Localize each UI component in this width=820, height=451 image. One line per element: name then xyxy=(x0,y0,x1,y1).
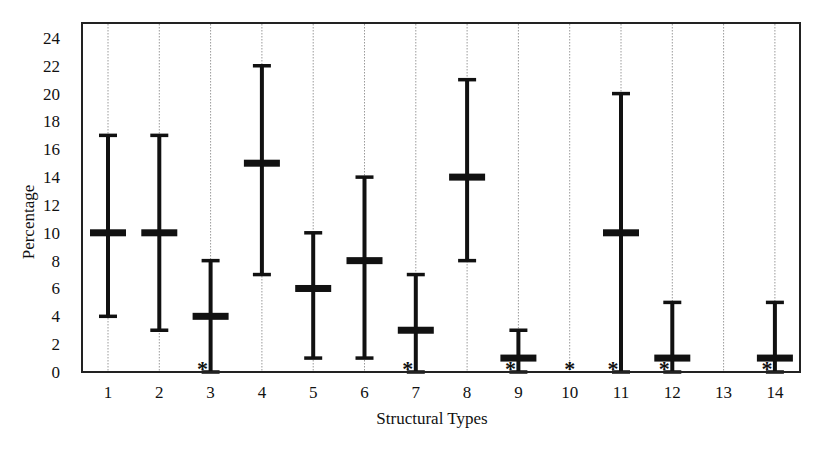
x-tick-label: 2 xyxy=(155,383,164,402)
x-tick-label: 12 xyxy=(664,383,681,402)
asterisk-marker: * xyxy=(608,356,619,381)
y-tick-label: 24 xyxy=(43,29,61,48)
y-axis-label: Percentage xyxy=(19,147,39,297)
asterisk-marker: * xyxy=(564,356,575,381)
asterisk-marker: * xyxy=(659,356,670,381)
x-tick-label: 13 xyxy=(715,383,732,402)
x-tick-label: 7 xyxy=(412,383,421,402)
y-tick-label: 20 xyxy=(43,85,60,104)
y-tick-label: 8 xyxy=(52,252,61,271)
y-tick-label: 18 xyxy=(43,112,60,131)
y-tick-label: 6 xyxy=(52,279,61,298)
y-tick-label: 10 xyxy=(43,224,60,243)
mean-marker xyxy=(90,229,126,236)
y-tick-label: 16 xyxy=(43,140,60,159)
mean-marker xyxy=(244,160,280,167)
mean-marker xyxy=(449,174,485,181)
x-tick-label: 3 xyxy=(206,383,215,402)
x-axis-ticks: 1234567891011121314 xyxy=(104,383,784,402)
x-tick-label: 1 xyxy=(104,383,113,402)
x-tick-label: 4 xyxy=(258,383,267,402)
asterisk-marker: * xyxy=(197,356,208,381)
error-bars xyxy=(90,66,793,372)
y-tick-label: 2 xyxy=(52,335,61,354)
y-tick-label: 4 xyxy=(52,307,61,326)
x-tick-label: 8 xyxy=(463,383,472,402)
y-axis-ticks: 024681012141618202224 xyxy=(43,29,61,382)
mean-marker xyxy=(193,313,229,320)
mean-marker xyxy=(141,229,177,236)
error-bar-chart: ******* 024681012141618202224 1234567891… xyxy=(0,0,820,451)
x-tick-label: 11 xyxy=(613,383,629,402)
y-axis-label-container: Percentage xyxy=(14,150,44,300)
x-tick-label: 10 xyxy=(561,383,578,402)
asterisk-marker: * xyxy=(761,356,772,381)
y-tick-label: 0 xyxy=(52,363,61,382)
mean-marker xyxy=(603,229,639,236)
x-tick-label: 14 xyxy=(766,383,784,402)
asterisk-marker: * xyxy=(402,356,413,381)
asterisk-marker: * xyxy=(505,356,516,381)
mean-marker xyxy=(398,327,434,334)
x-tick-label: 5 xyxy=(309,383,318,402)
x-tick-label: 6 xyxy=(360,383,369,402)
mean-marker xyxy=(295,285,331,292)
y-tick-label: 22 xyxy=(43,57,60,76)
x-axis-label: Structural Types xyxy=(0,409,820,429)
y-tick-label: 12 xyxy=(43,196,60,215)
x-tick-label: 9 xyxy=(514,383,523,402)
plot-frame xyxy=(82,23,800,372)
y-tick-label: 14 xyxy=(43,168,61,187)
mean-marker xyxy=(347,257,383,264)
